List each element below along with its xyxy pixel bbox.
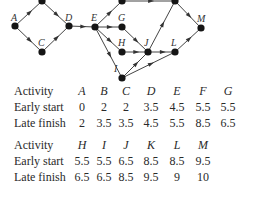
early-start-I: 5.5 [92,154,116,169]
late-finish-H: 6.5 [70,170,94,185]
activity-I: I [92,138,116,153]
early-start-H: 5.5 [70,154,94,169]
early-start-G: 5.5 [216,100,240,115]
early-start-J: 6.5 [114,154,138,169]
late-finish-G: 6.5 [216,116,240,131]
node-C [38,48,45,55]
late-finish-F: 8.5 [191,116,215,131]
late-finish-K: 9.5 [139,170,163,185]
activity-A: A [70,84,94,99]
late-finish-J: 8.5 [114,170,138,185]
arrow-icon [148,61,155,67]
late-finish-I: 6.5 [92,170,116,185]
node-label-C: C [38,37,45,48]
late-finish-M: 10 [191,170,215,185]
late-finish-A: 2 [70,116,94,131]
early-start-L: 8.5 [165,154,189,169]
late-finish-C: 3.5 [114,116,138,131]
node-A [11,22,18,29]
node-label-J: J [144,37,149,48]
node-label-H: H [117,37,126,48]
activity-L: L [165,138,189,153]
activity-G: G [216,84,240,99]
node-G [118,23,125,30]
early-start-A: 0 [70,100,94,115]
activity-network-diagram: ACDEGHIJLM [0,0,255,90]
node-E [91,23,98,30]
early-start-E: 4.5 [165,100,189,115]
arrow-icon [107,51,113,58]
late-finish-E: 5.5 [165,116,189,131]
node-label-A: A [10,12,18,23]
late-finish-B: 3.5 [92,116,116,131]
node-label-G: G [118,12,125,23]
node-L [171,48,178,55]
early-start-M: 9.5 [191,154,215,169]
arrow-icon [160,50,166,54]
early-start-B: 2 [92,100,116,115]
node-label-E: E [90,12,97,23]
node-label-M: M [196,13,206,24]
activity-H: H [70,138,94,153]
late-finish-L: 9 [165,170,189,185]
activity-B: B [92,84,116,99]
activity-K: K [139,138,163,153]
node-I [118,74,125,81]
arrow-icon [107,25,113,29]
node-D [65,22,72,29]
activity-E: E [165,84,189,99]
node-J [144,48,151,55]
late-finish-D: 4.5 [139,116,163,131]
arrow-icon [133,50,139,54]
activity-D: D [139,84,163,99]
node-label-I: I [113,63,118,74]
activity-F: F [191,84,215,99]
activity-J: J [114,138,138,153]
node-H [118,48,125,55]
arrow-icon [160,20,166,27]
node-label-L: L [170,37,177,48]
node-label-D: D [64,12,73,23]
activity-M: M [191,138,215,153]
early-start-K: 8.5 [139,154,163,169]
early-start-F: 5.5 [191,100,215,115]
arrow-icon [80,24,86,28]
early-start-D: 3.5 [139,100,163,115]
early-start-C: 2 [114,100,138,115]
node-M [197,24,204,31]
activity-C: C [114,84,138,99]
network-labels: ACDEGHIJLM [10,12,206,74]
